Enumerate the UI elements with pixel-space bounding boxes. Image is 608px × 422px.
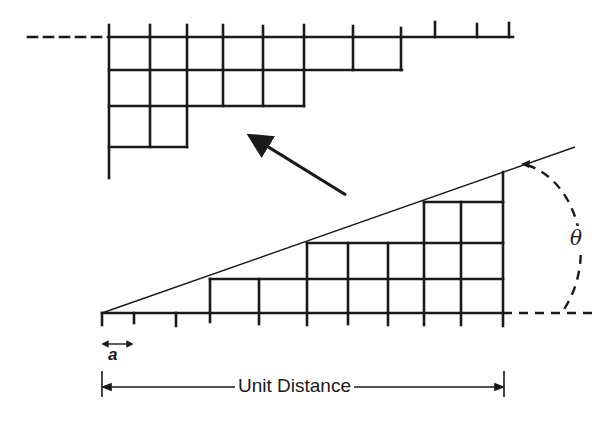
diagram-svg xyxy=(0,0,608,422)
step-width-label: a xyxy=(108,345,117,365)
angle-arc-arrowhead xyxy=(521,160,530,168)
diagram-canvas: Unit Distance a θ xyxy=(0,0,608,422)
lower-grid xyxy=(102,172,503,326)
rotation-arrow xyxy=(252,137,346,195)
upper-grid xyxy=(28,22,513,178)
unit-distance-label: Unit Distance xyxy=(235,375,354,397)
angle-label: θ xyxy=(570,226,582,250)
